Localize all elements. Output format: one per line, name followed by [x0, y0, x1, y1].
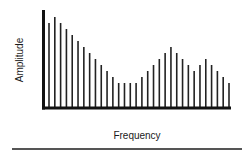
bottom-divider [12, 148, 242, 150]
y-axis-label: Amplitude [14, 38, 25, 82]
spectrum-figure: Amplitude Frequency [0, 0, 242, 150]
spectrum-bars [49, 17, 229, 108]
x-axis-label: Frequency [113, 130, 160, 141]
spectrum-plot [0, 0, 242, 150]
